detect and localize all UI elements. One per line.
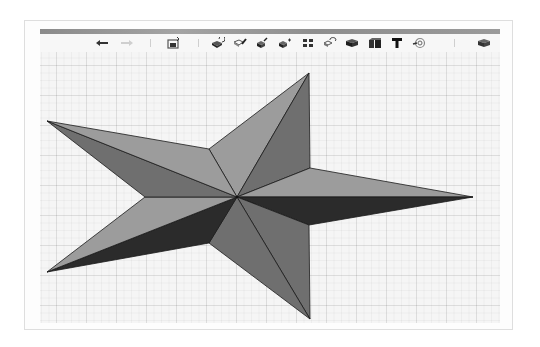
toolbar-separator (454, 39, 455, 47)
text-tool-button[interactable] (390, 36, 404, 50)
insert-shape-icon (167, 37, 181, 49)
solid-tool-button[interactable] (345, 36, 359, 50)
pencil-tool-button[interactable] (233, 36, 247, 50)
redo-button[interactable] (120, 36, 134, 50)
cube-solid-icon (345, 37, 359, 49)
rotate-tool-button[interactable] (211, 36, 225, 50)
cube-edit-icon (255, 37, 269, 49)
cube-orbit-icon (323, 37, 337, 49)
cube-add-icon (278, 37, 292, 49)
redo-arrow-icon (120, 38, 134, 48)
toolbar-separator (150, 39, 151, 47)
box-tool-button[interactable] (368, 36, 382, 50)
edit-tool-button[interactable] (255, 36, 269, 50)
toolbar (40, 34, 500, 52)
text-t-icon (391, 37, 403, 49)
grid-tool-button[interactable] (301, 36, 315, 50)
paint-tool-button[interactable] (412, 36, 426, 50)
paint-swirl-icon (412, 37, 426, 49)
orbit-tool-button[interactable] (323, 36, 337, 50)
insert-shape-button[interactable] (167, 36, 181, 50)
cube-pencil-icon (233, 37, 247, 49)
undo-arrow-icon (95, 38, 109, 48)
cube-export-icon (477, 37, 491, 49)
undo-button[interactable] (95, 36, 109, 50)
add-tool-button[interactable] (278, 36, 292, 50)
toolbar-separator (198, 39, 199, 47)
export-tool-button[interactable] (477, 36, 491, 50)
cube-rotate-icon (211, 37, 225, 49)
grid-squares-icon (302, 38, 314, 48)
cube-box-icon (368, 37, 382, 49)
